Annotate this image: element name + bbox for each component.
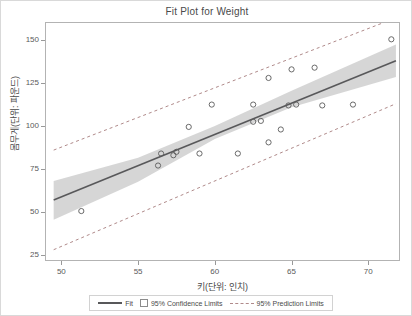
data-point [186, 124, 191, 129]
data-point [389, 37, 394, 42]
confidence-band [54, 44, 396, 219]
legend-label-prediction: 95% Prediction Limits [257, 300, 324, 307]
data-point [350, 102, 355, 107]
data-point [312, 65, 317, 70]
x-axis-title: 키(단위: 인치) [45, 280, 400, 293]
chart-title: Fit Plot for Weight [1, 6, 412, 17]
x-tick-mark [138, 261, 139, 265]
x-tick-mark [368, 261, 369, 265]
fit-line-swatch-icon [98, 302, 122, 304]
legend-label-fit: Fit [125, 300, 133, 307]
plot-area [45, 22, 400, 261]
y-tick-mark [41, 212, 45, 213]
x-tick-label: 60 [200, 267, 230, 276]
data-point [266, 140, 271, 145]
y-axis-title: 몸무게(단위: 파운드) [8, 49, 21, 179]
x-tick-mark [61, 261, 62, 265]
y-tick-label: 100 [13, 121, 39, 130]
prediction-dash-swatch-icon [230, 303, 254, 304]
x-tick-label: 70 [353, 267, 383, 276]
confidence-box-swatch-icon [140, 299, 148, 307]
y-tick-label: 25 [13, 250, 39, 259]
x-tick-mark [215, 261, 216, 265]
y-tick-label: 50 [13, 207, 39, 216]
data-point [79, 208, 84, 213]
data-point [251, 102, 256, 107]
data-point [209, 102, 214, 107]
data-point [289, 67, 294, 72]
legend-item-confidence: 95% Confidence Limits [140, 299, 223, 307]
fit-plot-figure: Fit Plot for Weight 몸무게(단위: 파운드) 키(단위: 인… [0, 0, 412, 316]
chart-legend: Fit 95% Confidence Limits 95% Prediction… [89, 295, 333, 311]
data-point [320, 103, 325, 108]
y-tick-mark [41, 40, 45, 41]
prediction-band-group [54, 23, 396, 250]
confidence-band-group [54, 44, 396, 219]
legend-item-fit: Fit [98, 300, 133, 307]
y-tick-mark [41, 83, 45, 84]
data-point [266, 75, 271, 80]
y-tick-label: 125 [13, 78, 39, 87]
y-tick-mark [41, 255, 45, 256]
y-tick-label: 75 [13, 164, 39, 173]
x-tick-label: 50 [46, 267, 76, 276]
y-tick-label: 150 [13, 35, 39, 44]
x-tick-label: 65 [277, 267, 307, 276]
legend-label-confidence: 95% Confidence Limits [151, 300, 223, 307]
data-point [278, 127, 283, 132]
x-tick-label: 55 [123, 267, 153, 276]
x-tick-mark [292, 261, 293, 265]
y-tick-mark [41, 169, 45, 170]
plot-svg [46, 23, 399, 260]
legend-item-prediction: 95% Prediction Limits [230, 300, 324, 307]
data-point [235, 151, 240, 156]
data-point [197, 151, 202, 156]
y-tick-mark [41, 126, 45, 127]
